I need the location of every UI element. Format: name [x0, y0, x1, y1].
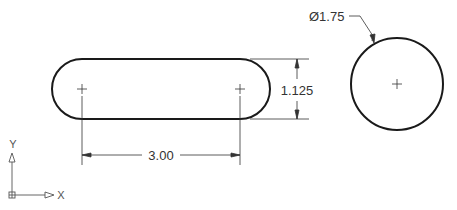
- dimension-text-vertical: 1.125: [281, 83, 314, 98]
- center-mark-circle: [392, 79, 402, 89]
- ucs-icon: [9, 153, 54, 198]
- dimension-text-diameter: Ø1.75: [309, 9, 344, 24]
- ucs-x-label: X: [57, 189, 65, 201]
- arrowhead-bottom: [295, 110, 299, 119]
- arrowhead-top: [295, 59, 299, 68]
- leader-arrowhead: [370, 34, 375, 43]
- dimension-text-horizontal: 3.00: [148, 148, 173, 163]
- drawing-canvas[interactable]: 3.00 1.125 Ø1.75: [0, 0, 457, 210]
- ucs-y-label: Y: [9, 138, 17, 150]
- diameter-leader[interactable]: [349, 16, 375, 43]
- center-mark-left: [77, 84, 87, 94]
- ucs-x-arrow-icon: [45, 192, 54, 198]
- arrowhead-left: [82, 153, 91, 157]
- center-mark-right: [235, 84, 245, 94]
- ucs-y-arrow-icon: [9, 153, 15, 162]
- arrowhead-right: [231, 153, 240, 157]
